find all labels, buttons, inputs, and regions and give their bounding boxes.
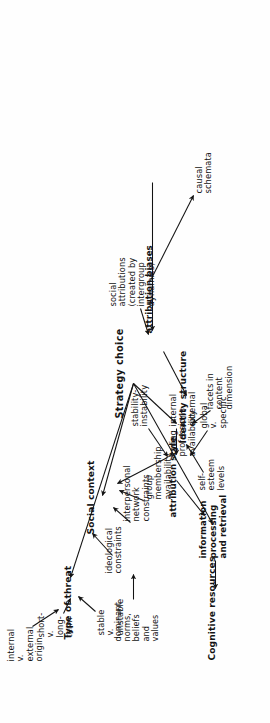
node-causal-schemata: causal schemata [194,151,213,193]
diagram-canvas: Strategy choice Type of threat internal … [0,0,270,723]
node-strategy-choice: Strategy choice [114,328,125,418]
node-social-attributions-intergroup: social attributions (created by intergro… [108,257,155,306]
node-social-context: Social context [85,460,95,534]
node-threat-short-long-term: short- v. long- term [36,612,74,637]
edge-social-attributions-to-causal [150,195,193,280]
node-information-processing-and-retrieval: information processing and retrieval [198,494,227,558]
figure-page: Strategy choice Type of threat internal … [0,0,270,723]
node-ideological-constraints: ideological constraints [104,526,123,573]
node-attribution-style: attribution style [168,436,178,517]
node-global-v-specific: global v. specific [199,396,227,428]
node-dominant-norms-beliefs-values: dominant norms, beliefs and values [113,602,159,641]
node-stability-instability: stability- instability [130,384,149,426]
node-internal-v-external: internal v. external [168,391,196,426]
edge-stable-unstable-to-threat [78,596,95,611]
node-cognitive-resources: Cognitive resources [206,556,216,660]
node-self-esteem-levels: self- esteem levels [197,458,225,490]
